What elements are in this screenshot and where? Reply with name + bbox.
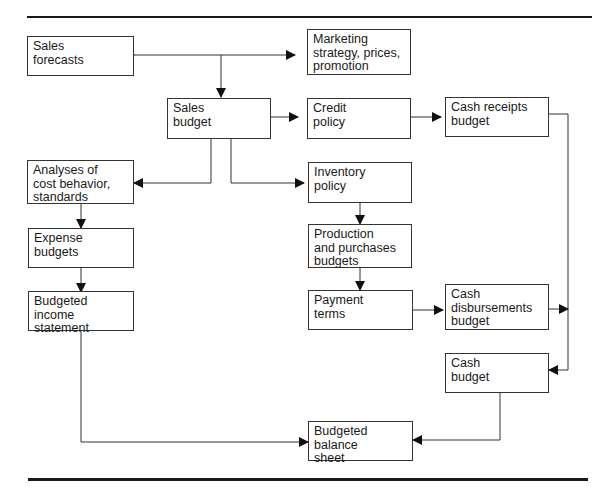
edge-income-balancesheet — [81, 331, 308, 442]
edge-cashbudget-balancesheet — [413, 393, 500, 440]
node-sales-budget: Sales budget — [167, 98, 271, 139]
node-credit-policy: Credit policy — [307, 98, 411, 139]
node-inventory-policy: Inventory policy — [308, 162, 412, 203]
node-marketing-strategy: Marketing strategy, prices, promotion — [307, 29, 411, 75]
node-production-budgets: Production and purchases budgets — [308, 224, 412, 268]
edge-salesbudget-inventory — [231, 139, 304, 183]
node-budgeted-balance-sheet: Budgeted balance sheet — [308, 421, 413, 461]
node-cash-budget: Cash budget — [445, 353, 549, 393]
node-cost-analyses: Analyses of cost behavior, standards — [27, 160, 134, 204]
bottom-rule — [28, 478, 588, 481]
edge-receipts-cashbudget — [549, 114, 568, 370]
node-expense-budgets: Expense budgets — [28, 228, 134, 268]
node-sales-forecasts: Sales forecasts — [27, 36, 134, 76]
node-cash-disbursements-budget: Cash disbursements budget — [445, 284, 549, 330]
node-payment-terms: Payment terms — [308, 290, 413, 330]
node-cash-receipts-budget: Cash receipts budget — [445, 97, 549, 137]
node-budgeted-income-statement: Budgeted income statement — [28, 291, 134, 331]
edge-salesbudget-analyses — [134, 139, 211, 183]
